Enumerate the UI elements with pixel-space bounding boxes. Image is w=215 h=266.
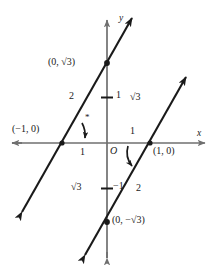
angle-marker-asterisk: * xyxy=(85,113,90,122)
line-right xyxy=(85,77,186,255)
x-axis-label: x xyxy=(197,129,201,139)
angle-arc-left xyxy=(82,123,85,138)
side-label-hypotenuse-lower: 2 xyxy=(136,183,141,193)
y-axis-label: y xyxy=(119,14,123,24)
origin-label: O xyxy=(110,146,117,156)
x-tick-label-left-one: 1 xyxy=(80,147,85,157)
y-tick-label-positive-one: 1 xyxy=(116,90,121,100)
point-label-upper-y-intercept: (0, √3) xyxy=(48,57,75,67)
angle-arc-right xyxy=(127,146,132,166)
side-label-vertical-upper: √3 xyxy=(130,92,141,102)
y-tick-label-negative-one: −1 xyxy=(113,181,124,191)
point-label-lower-y-intercept: (0, −√3) xyxy=(112,215,145,225)
x-tick-label-right-one: 1 xyxy=(130,126,135,136)
graph-figure: y x O (0, √3) (−1, 0) (1, 0) (0, −√3) 2 … xyxy=(0,0,215,266)
side-label-hypotenuse-upper: 2 xyxy=(69,91,74,101)
point-label-right-x-intercept: (1, 0) xyxy=(153,146,175,156)
side-label-vertical-lower: √3 xyxy=(71,182,82,192)
point-label-left-x-intercept: (−1, 0) xyxy=(12,124,39,134)
